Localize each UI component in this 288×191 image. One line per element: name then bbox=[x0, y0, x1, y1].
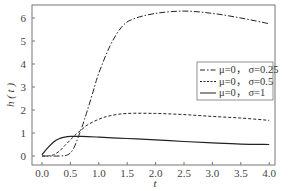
x-tick-label: 1.5 bbox=[120, 167, 134, 179]
series-line-dashed bbox=[42, 113, 269, 156]
series-line-solid bbox=[42, 136, 269, 154]
y-tick-label: 1 bbox=[21, 127, 27, 139]
x-tick-label: 0.5 bbox=[64, 167, 78, 179]
x-tick-label: 1.0 bbox=[92, 167, 106, 179]
x-tick-label: 2.5 bbox=[177, 167, 191, 179]
line-chart: 0123456 0.00.51.01.52.02.53.03.54.0 h ( … bbox=[0, 0, 288, 191]
legend: μ=0， σ=0.25μ=0， σ=0.5μ=0， σ=1 bbox=[197, 62, 278, 100]
legend-label: μ=0， σ=1 bbox=[219, 87, 265, 98]
x-tick-label: 0.0 bbox=[35, 167, 49, 179]
y-tick-label: 6 bbox=[21, 12, 27, 24]
y-tick-label: 5 bbox=[21, 35, 27, 47]
x-tick-label: 3.5 bbox=[234, 167, 248, 179]
y-tick-label: 0 bbox=[21, 150, 27, 162]
y-tick-label: 2 bbox=[21, 104, 27, 116]
y-tick-label: 3 bbox=[21, 81, 27, 93]
y-tick-label: 4 bbox=[21, 58, 27, 70]
y-axis: 0123456 bbox=[21, 12, 36, 162]
y-axis-label: h ( t ) bbox=[4, 83, 17, 107]
x-tick-label: 4.0 bbox=[262, 167, 276, 179]
legend-label: μ=0， σ=0.5 bbox=[219, 76, 273, 87]
x-tick-label: 3.0 bbox=[206, 167, 220, 179]
legend-label: μ=0， σ=0.25 bbox=[219, 64, 278, 75]
